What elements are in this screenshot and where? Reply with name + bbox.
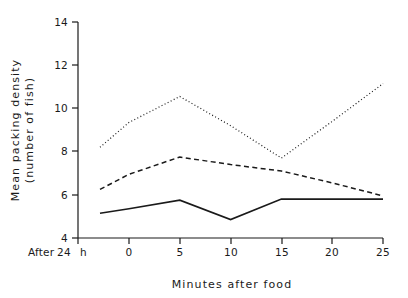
x-tick-labels: 0 5 10 15 20 25 bbox=[126, 246, 390, 258]
baseline-24-label: 24 bbox=[57, 246, 71, 258]
x-tick-label-10: 10 bbox=[224, 246, 238, 258]
y-tick-label-14: 14 bbox=[54, 16, 68, 28]
series-solid-line bbox=[100, 199, 383, 220]
y-tick-label-8: 8 bbox=[61, 145, 68, 157]
data-series-group bbox=[100, 84, 383, 220]
y-tick-marks bbox=[72, 22, 78, 238]
y-tick-label-4: 4 bbox=[61, 232, 68, 244]
baseline-h-label: h bbox=[80, 246, 87, 258]
x-tick-label-15: 15 bbox=[275, 246, 289, 258]
y-axis-title-line2: (number of fish) bbox=[23, 77, 36, 183]
y-tick-label-12: 12 bbox=[54, 59, 68, 71]
series-dotted-line bbox=[100, 84, 383, 159]
line-chart-svg: 14 12 10 8 6 4 0 5 10 15 20 25 After bbox=[0, 0, 408, 298]
y-axis-title-line1: Mean packing density bbox=[9, 59, 22, 201]
x-tick-label-0: 0 bbox=[126, 246, 133, 258]
y-tick-label-10: 10 bbox=[54, 102, 68, 114]
x-tick-marks bbox=[78, 238, 383, 244]
y-tick-label-6: 6 bbox=[61, 189, 68, 201]
x-axis-title: Minutes after food bbox=[172, 278, 292, 291]
y-tick-labels: 14 12 10 8 6 4 bbox=[54, 16, 68, 244]
x-tick-label-25: 25 bbox=[376, 246, 390, 258]
baseline-annotation: After 24 h bbox=[28, 246, 87, 258]
axis-group bbox=[78, 22, 383, 238]
series-dashed-line bbox=[100, 157, 383, 196]
x-tick-label-20: 20 bbox=[325, 246, 339, 258]
chart-figure: 14 12 10 8 6 4 0 5 10 15 20 25 After bbox=[0, 0, 408, 298]
x-tick-label-5: 5 bbox=[177, 246, 184, 258]
baseline-after-label: After bbox=[28, 246, 55, 258]
